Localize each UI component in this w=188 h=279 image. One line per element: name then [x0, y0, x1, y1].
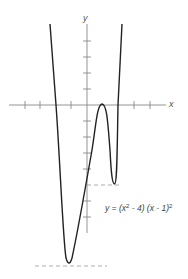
equation-prefix: y = (x	[105, 203, 126, 213]
function-curve	[50, 24, 122, 263]
y-axis-label: y	[83, 14, 88, 23]
x-axis-label: x	[169, 100, 174, 109]
equation-exp2: 2	[169, 203, 172, 209]
equation-middle: - 4) (x - 1)	[129, 203, 169, 213]
equation-label: y = (x2 - 4) (x - 1)2	[105, 203, 172, 213]
chart-plot	[0, 0, 188, 279]
